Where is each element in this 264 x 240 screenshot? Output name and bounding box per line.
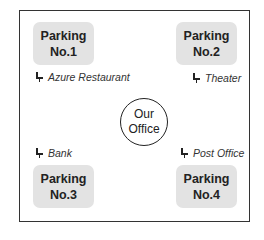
parking-no-1: Parking No.1 bbox=[33, 22, 94, 65]
parking-no-2: Parking No.2 bbox=[176, 22, 237, 65]
landmark-label: Azure Restaurant bbox=[48, 71, 130, 83]
pin-icon bbox=[180, 148, 189, 158]
office-label-line1: Our bbox=[134, 107, 154, 122]
pin-icon bbox=[35, 72, 44, 82]
landmark-azure-restaurant: Azure Restaurant bbox=[35, 71, 130, 83]
landmark-bank: Bank bbox=[35, 147, 72, 159]
our-office-circle: Our Office bbox=[120, 98, 168, 146]
parking-label: Parking bbox=[41, 28, 87, 44]
parking-label: Parking bbox=[184, 28, 230, 44]
parking-no-4: Parking No.4 bbox=[176, 165, 237, 208]
landmark-label: Post Office bbox=[193, 147, 244, 159]
office-label-line2: Office bbox=[128, 122, 159, 137]
pin-icon bbox=[35, 148, 44, 158]
parking-number: No.2 bbox=[193, 44, 220, 60]
parking-number: No.4 bbox=[193, 187, 220, 203]
parking-no-3: Parking No.3 bbox=[33, 165, 94, 208]
parking-label: Parking bbox=[41, 171, 87, 187]
landmark-label: Theater bbox=[205, 72, 241, 84]
landmark-theater: Theater bbox=[192, 72, 241, 84]
parking-label: Parking bbox=[184, 171, 230, 187]
landmark-label: Bank bbox=[48, 147, 72, 159]
pin-icon bbox=[192, 73, 201, 83]
parking-number: No.3 bbox=[50, 187, 77, 203]
parking-number: No.1 bbox=[50, 44, 77, 60]
landmark-post-office: Post Office bbox=[180, 147, 244, 159]
